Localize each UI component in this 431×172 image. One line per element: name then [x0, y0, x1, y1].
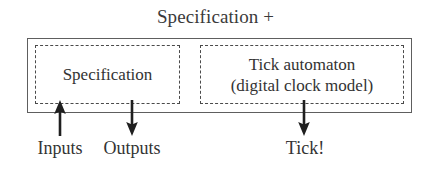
component-tick-automaton: Tick automaton (digital clock model)	[200, 45, 404, 104]
diagram-title: Specification +	[0, 6, 431, 28]
component-tick-automaton-label-line2: (digital clock model)	[231, 75, 374, 96]
specification-plus-diagram: Specification + Specification Tick autom…	[0, 0, 431, 172]
arrow-down-icon-outputs	[121, 99, 143, 137]
component-tick-automaton-label: Tick automaton (digital clock model)	[231, 54, 374, 96]
arrow-down-icon-tick	[293, 99, 315, 137]
port-label-tick: Tick!	[265, 138, 345, 159]
port-label-outputs: Outputs	[92, 138, 172, 159]
component-tick-automaton-label-line1: Tick automaton	[231, 54, 374, 75]
arrow-up-icon-inputs	[49, 99, 71, 137]
component-specification: Specification	[35, 45, 180, 104]
port-label-inputs: Inputs	[19, 138, 101, 159]
component-specification-label: Specification	[63, 65, 153, 85]
